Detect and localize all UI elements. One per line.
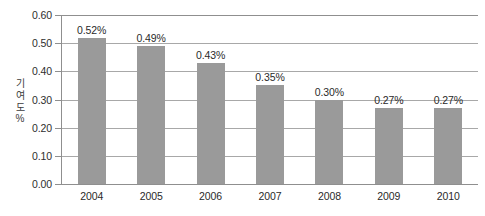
bar-value-label: 0.43% bbox=[184, 49, 238, 61]
gridline bbox=[62, 15, 478, 16]
y-axis-tick-label: 0.00 bbox=[24, 178, 52, 190]
bar-chart: 기 여 도 % 0.000.100.200.300.400.500.60 0.5… bbox=[0, 0, 485, 216]
x-axis-label: 2009 bbox=[362, 190, 416, 202]
y-axis-tick-mark bbox=[55, 43, 62, 44]
bar-value-label: 0.27% bbox=[421, 94, 475, 106]
y-axis-tick-mark bbox=[55, 128, 62, 129]
y-axis-tick-label: 0.40 bbox=[24, 65, 52, 77]
bar bbox=[375, 108, 403, 184]
x-axis-label: 2005 bbox=[124, 190, 178, 202]
bar-value-label: 0.49% bbox=[124, 32, 178, 44]
y-axis-tick-label: 0.50 bbox=[24, 37, 52, 49]
y-axis-tick-mark bbox=[55, 71, 62, 72]
y-axis-tick-mark bbox=[55, 184, 62, 185]
bar-value-label: 0.52% bbox=[65, 24, 119, 36]
bar-value-label: 0.27% bbox=[362, 94, 416, 106]
bar-value-label: 0.35% bbox=[243, 71, 297, 83]
bar bbox=[197, 63, 225, 184]
y-axis-tick-mark bbox=[55, 100, 62, 101]
gridline bbox=[62, 184, 478, 185]
x-axis-label: 2007 bbox=[243, 190, 297, 202]
y-axis-tick-label: 0.10 bbox=[24, 150, 52, 162]
bar bbox=[137, 46, 165, 184]
y-axis-tick-label: 0.20 bbox=[24, 122, 52, 134]
bar bbox=[315, 100, 343, 185]
y-axis-tick-mark bbox=[55, 15, 62, 16]
bar bbox=[434, 108, 462, 184]
x-axis-label: 2010 bbox=[421, 190, 475, 202]
x-axis-label: 2008 bbox=[302, 190, 356, 202]
bar-value-label: 0.30% bbox=[302, 86, 356, 98]
y-axis-tick-label: 0.30 bbox=[24, 94, 52, 106]
y-axis-tick-label: 0.60 bbox=[24, 9, 52, 21]
y-axis-tick-mark bbox=[55, 156, 62, 157]
bar bbox=[78, 38, 106, 184]
bar bbox=[256, 85, 284, 184]
y-axis-title-char: 기 bbox=[16, 78, 25, 90]
x-axis-label: 2004 bbox=[65, 190, 119, 202]
x-axis-label: 2006 bbox=[184, 190, 238, 202]
